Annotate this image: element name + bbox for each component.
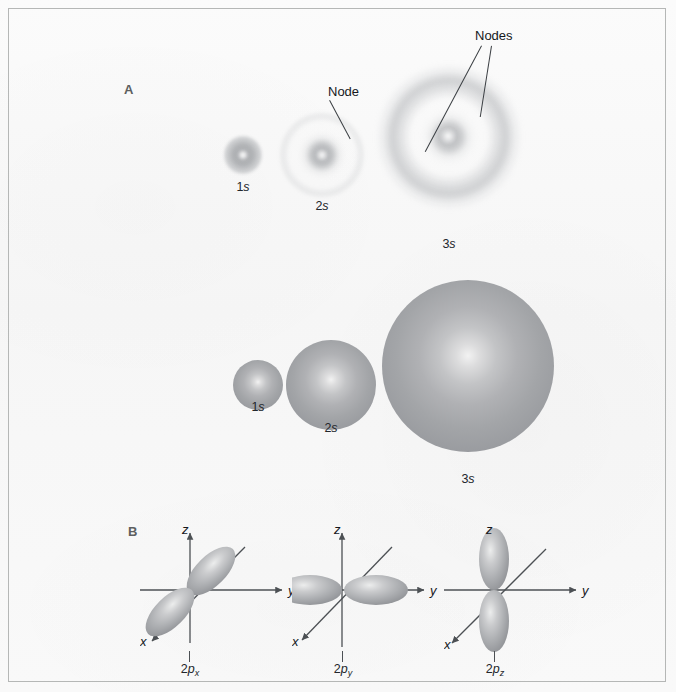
2px-x-label: x — [140, 634, 147, 649]
2py-label: 2py — [319, 662, 367, 676]
2pz-lobe-lower — [479, 590, 509, 652]
2py-y-label: y — [429, 583, 438, 598]
panel-letter-b: B — [128, 524, 138, 539]
2s-cloud-label: 2s — [301, 199, 343, 213]
2py-lobes — [292, 575, 408, 605]
2py-label-tick — [342, 651, 343, 662]
2pz-diagram: y z x — [444, 525, 624, 655]
2s-sphere — [286, 340, 376, 430]
1s-nucleus-highlight — [238, 150, 248, 160]
2py-lobe-right — [344, 575, 408, 605]
2pz-label: 2pz — [471, 662, 519, 676]
2s-nucleus-highlight — [316, 149, 328, 161]
2pz-y-label: y — [581, 583, 590, 598]
node-callout-text: Node — [328, 84, 359, 99]
orbital-figure: A 1s 2s Node 3s Nodes 1s 2s 3s B — [0, 0, 676, 692]
2px-lobes — [140, 538, 244, 644]
2pz-x-label: x — [444, 637, 451, 652]
2px-label: 2px — [166, 662, 214, 676]
2px-z-label: z — [181, 525, 189, 537]
3s-nucleus-highlight — [440, 128, 456, 144]
nodes-callout-text: Nodes — [475, 28, 513, 43]
3s-sphere — [382, 280, 554, 452]
2py-lobe-left — [292, 575, 342, 605]
1s-cloud-label: 1s — [222, 180, 264, 194]
2py-x-label: x — [292, 634, 299, 649]
2px-label-tick — [189, 651, 190, 662]
3s-sphere-label: 3s — [447, 472, 489, 486]
2pz-label-tick — [494, 651, 495, 662]
2pz-z-label: z — [485, 525, 493, 537]
2s-sphere-label: 2s — [310, 421, 352, 435]
2pz-lobe-upper — [479, 528, 509, 590]
1s-sphere-label: 1s — [237, 400, 279, 414]
panel-letter-a: A — [124, 82, 134, 97]
2py-z-label: z — [333, 525, 341, 537]
3s-cloud-label: 3s — [428, 237, 470, 251]
